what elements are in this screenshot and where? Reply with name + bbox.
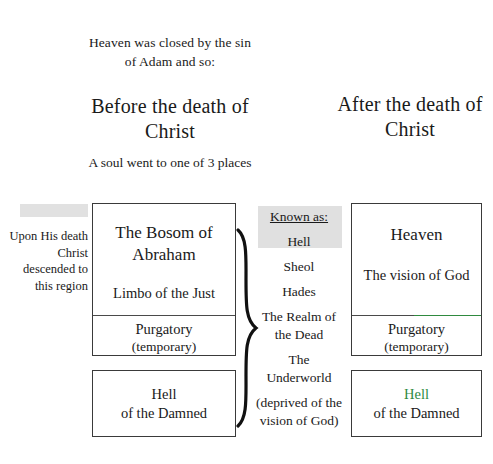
box-bosom-of-abraham: The Bosom of Abraham Limbo of the Just P… xyxy=(92,203,236,356)
box-hell-of-the-damned-before: Hell of the Damned xyxy=(92,370,236,437)
title-after-death: After the death of Christ xyxy=(330,92,490,142)
descended-caption: Upon His death Christ descended to this … xyxy=(8,228,88,294)
diagram-canvas: Heaven was closed by the sin of Adam and… xyxy=(0,0,493,464)
known-as-column: Known as: Hell Sheol Hades The Realm of … xyxy=(255,208,343,437)
box-divider-green-segment xyxy=(414,315,481,316)
soul-subnote: A soul went to one of 3 places xyxy=(86,153,254,172)
of-the-damned-label: of the Damned xyxy=(352,404,481,423)
purgatory-temporary-label: (temporary) xyxy=(93,338,235,356)
hell-label: Hell xyxy=(93,385,235,404)
hell-label: Hell xyxy=(352,385,481,404)
limbo-of-the-just: Limbo of the Just xyxy=(93,284,235,303)
bosom-title: The Bosom of Abraham xyxy=(93,222,235,266)
known-as-heading: Known as: xyxy=(255,208,343,226)
box-divider xyxy=(93,315,235,316)
highlight-bar-left xyxy=(20,204,88,217)
box-heaven: Heaven The vision of God Purgatory (temp… xyxy=(351,203,482,356)
of-the-damned-label: of the Damned xyxy=(93,404,235,423)
purgatory-label: Purgatory xyxy=(352,320,481,339)
known-as-item-deprived-of-vision: (deprived of the vision of God) xyxy=(255,394,343,430)
known-as-item-sheol: Sheol xyxy=(255,258,343,276)
known-as-item-realm-of-the-dead: The Realm of the Dead xyxy=(255,308,343,344)
known-as-item-hell: Hell xyxy=(255,233,343,251)
known-as-item-hades: Hades xyxy=(255,283,343,301)
title-before-death: Before the death of Christ xyxy=(82,94,258,144)
known-as-item-underworld: The Underworld xyxy=(255,351,343,387)
heaven-title: Heaven xyxy=(352,224,481,246)
box-hell-of-the-damned-after: Hell of the Damned xyxy=(351,370,482,437)
purgatory-label: Purgatory xyxy=(93,320,235,339)
purgatory-temporary-label: (temporary) xyxy=(352,338,481,356)
vision-of-god-label: The vision of God xyxy=(352,266,481,285)
intro-text: Heaven was closed by the sin of Adam and… xyxy=(86,33,254,71)
